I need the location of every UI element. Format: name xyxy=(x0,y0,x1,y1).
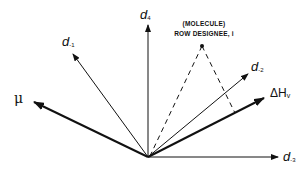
molecule-label: (MOLECULE) ROW DESIGNEE, i xyxy=(172,21,236,37)
molecule-label-line2: ROW DESIGNEE, i xyxy=(172,31,236,38)
label-d4-subscript: 4 xyxy=(147,15,150,21)
label-d-2: d-2 xyxy=(251,60,264,73)
label-mu-symbol: μ xyxy=(14,90,23,106)
dashed-line-to-origin xyxy=(150,46,202,156)
label-delta-hv-subscript: v xyxy=(287,92,291,99)
dashed-projection-line xyxy=(202,46,235,113)
vector-dHv-arrow xyxy=(148,98,264,157)
label-mu: μ xyxy=(14,91,23,105)
label-delta-hv: ΔHv xyxy=(270,87,290,99)
label-d-1-subscript: -1 xyxy=(69,42,74,48)
label-d-1: d-1 xyxy=(62,35,75,48)
molecule-point xyxy=(200,44,204,48)
vector-d-2-arrow xyxy=(148,74,248,157)
label-delta-hv-symbol: ΔH xyxy=(270,86,287,100)
vector-mu-arrow xyxy=(34,102,148,157)
molecule-label-line1: (MOLECULE) xyxy=(172,21,236,28)
vector-d-1-arrow xyxy=(73,54,148,157)
vector-diagram xyxy=(0,0,308,173)
label-d-3: d-3 xyxy=(283,150,296,163)
label-d-2-subscript: -2 xyxy=(258,67,263,73)
label-d4: d4 xyxy=(140,8,151,21)
label-d-3-subscript: -3 xyxy=(290,157,295,163)
